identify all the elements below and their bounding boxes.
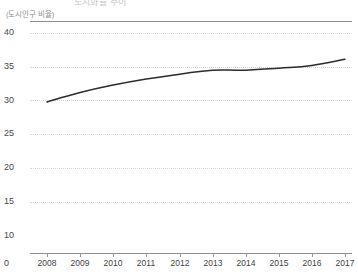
x-tick-mark-2011 — [146, 253, 147, 257]
y-tick-label-35: 35 — [4, 62, 26, 71]
gridline-10 — [30, 202, 352, 203]
y-tick-label-30: 30 — [4, 96, 26, 105]
y-tick-label-10: 10 — [4, 231, 26, 240]
clipped-chart-title: 도시화율 추이 — [0, 0, 358, 7]
x-tick-mark-2014 — [246, 253, 247, 257]
x-tick-mark-2008 — [47, 253, 48, 257]
y-tick-label-20: 20 — [4, 163, 26, 172]
x-tick-label-2010: 2010 — [104, 258, 123, 268]
gridline-15 — [30, 168, 352, 169]
plot-area — [30, 22, 352, 255]
x-tick-mark-2015 — [279, 253, 280, 257]
x-tick-mark-2013 — [213, 253, 214, 257]
x-tick-label-2013: 2013 — [204, 258, 223, 268]
x-tick-label-2012: 2012 — [171, 258, 190, 268]
x-tick-mark-2009 — [80, 253, 81, 257]
y-tick-label-15: 15 — [4, 197, 26, 206]
gridline-35 — [30, 33, 352, 34]
y-tick-label-0: 0 — [4, 258, 9, 268]
x-tick-label-2015: 2015 — [270, 258, 289, 268]
urban-population-line-chart: 도시화율 추이 (도시인구 비율) 40 35 30 25 20 15 10 0… — [0, 0, 358, 272]
x-tick-label-2017: 2017 — [336, 258, 355, 268]
x-tick-label-2011: 2011 — [137, 258, 155, 268]
gridline-25 — [30, 100, 352, 101]
y-tick-label-40: 40 — [4, 28, 26, 37]
gridline-20 — [30, 134, 352, 135]
x-tick-mark-2010 — [113, 253, 114, 257]
x-tick-label-2008: 2008 — [38, 258, 57, 268]
chart-title-text: 도시화율 추이 — [74, 0, 126, 7]
x-tick-mark-2012 — [180, 253, 181, 257]
gridline-30 — [30, 67, 352, 68]
x-tick-mark-2017 — [345, 253, 346, 257]
x-tick-label-2016: 2016 — [303, 258, 322, 268]
x-tick-label-2014: 2014 — [237, 258, 256, 268]
x-tick-label-2009: 2009 — [71, 258, 90, 268]
y-axis-unit-caption: (도시인구 비율) — [6, 8, 54, 19]
y-tick-label-25: 25 — [4, 129, 26, 138]
x-tick-mark-2016 — [312, 253, 313, 257]
